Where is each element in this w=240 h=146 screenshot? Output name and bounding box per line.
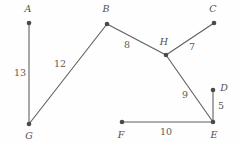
- vertex-label-f: F: [118, 130, 125, 140]
- edge-weight-b-h: 8: [124, 40, 130, 50]
- vertex-label-g: G: [25, 131, 33, 141]
- vertex-label-e: E: [211, 130, 218, 140]
- vertex-label-c: C: [209, 4, 216, 14]
- edge-weight-d-e: 5: [218, 101, 224, 111]
- vertex-label-b: B: [103, 4, 110, 14]
- edge-weight-f-e: 10: [160, 127, 172, 137]
- edge-weight-g-b: 12: [54, 59, 66, 69]
- edge-weight-h-c: 7: [189, 42, 195, 52]
- vertex-label-h: H: [160, 37, 168, 47]
- vertex-label-a: A: [25, 4, 32, 14]
- edge-weight-h-e: 9: [182, 90, 188, 100]
- vertex-label-d: D: [220, 83, 228, 93]
- labels-layer: ABCDEFGH1312879510: [0, 0, 240, 146]
- weighted-graph-figure: ABCDEFGH1312879510: [0, 0, 240, 146]
- edge-weight-a-g: 13: [14, 68, 26, 78]
